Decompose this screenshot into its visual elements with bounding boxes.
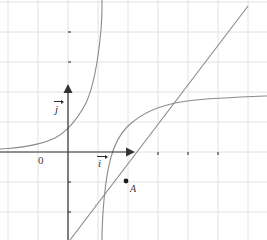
y-axis-arrowhead-icon <box>64 84 73 93</box>
coordinate-plot <box>0 0 267 240</box>
graph-figure: 0 A i j <box>0 0 267 240</box>
axes <box>0 92 127 240</box>
curve-exponential <box>0 0 102 149</box>
curve-logarithm <box>102 96 267 240</box>
right-arrow-icon <box>97 156 107 157</box>
x-axis-arrowhead-icon <box>126 148 135 157</box>
filled-dot-icon <box>124 179 129 184</box>
j-vector-label: j <box>55 103 58 115</box>
stray-speck <box>95 204 97 206</box>
up-arrow-icon <box>54 101 63 102</box>
i-vector-label: i <box>98 157 101 169</box>
grid-lines <box>0 0 267 240</box>
